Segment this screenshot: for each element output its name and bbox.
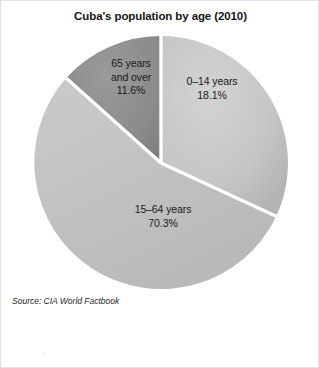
source-note: Source: CIA World Factbook	[12, 296, 119, 306]
pie-label-65-plus: 65 years and over 11.6%	[93, 57, 169, 98]
pie-label-15-64: 15–64 years 70.3%	[108, 203, 218, 230]
footer-dot-mark	[43, 352, 46, 355]
pie-label-0-14: 0–14 years 18.1%	[169, 75, 255, 102]
chart-page: Cuba's population by age (2010)	[0, 0, 319, 368]
